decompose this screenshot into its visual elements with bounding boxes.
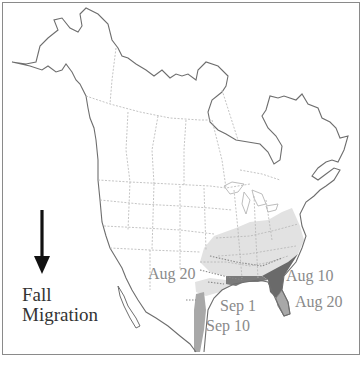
date-label-sep1: Sep 1 <box>220 298 256 314</box>
departure-zone-sep10 <box>194 292 206 352</box>
date-label-aug20-west: Aug 20 <box>148 266 196 282</box>
down-arrow-icon <box>34 210 50 274</box>
date-label-aug20-east: Aug 20 <box>295 294 343 310</box>
legend-label: Fall Migration <box>22 285 98 325</box>
date-label-sep10: Sep 10 <box>206 318 250 334</box>
legend-line-2: Migration <box>22 305 98 325</box>
date-label-aug10: Aug 10 <box>286 268 334 284</box>
baja-california <box>118 286 140 328</box>
legend-line-1: Fall <box>22 285 98 305</box>
